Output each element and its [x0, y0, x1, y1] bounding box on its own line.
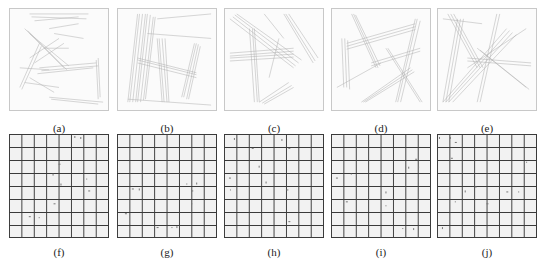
label-h: (h): [224, 246, 324, 258]
label-g: (g): [117, 246, 217, 258]
sketch-image-c: [224, 8, 324, 111]
label-b: (b): [117, 122, 217, 134]
grid-image-f: [9, 134, 109, 238]
sketch-image-d: [331, 8, 431, 111]
grid-image-j: [437, 134, 537, 238]
grid-image-h: [224, 134, 324, 238]
label-d: (d): [331, 122, 431, 134]
label-a: (a): [9, 122, 109, 134]
label-c: (c): [224, 122, 324, 134]
strokes-a: [20, 14, 103, 104]
label-i: (i): [331, 246, 431, 258]
label-j: (j): [437, 246, 537, 258]
grid-image-i: [331, 134, 431, 238]
grid-image-g: [117, 134, 217, 238]
label-e: (e): [437, 122, 537, 134]
sketch-image-a: [9, 8, 109, 111]
label-f: (f): [9, 246, 109, 258]
sketch-image-b: [117, 8, 217, 111]
sketch-image-e: [437, 8, 537, 111]
